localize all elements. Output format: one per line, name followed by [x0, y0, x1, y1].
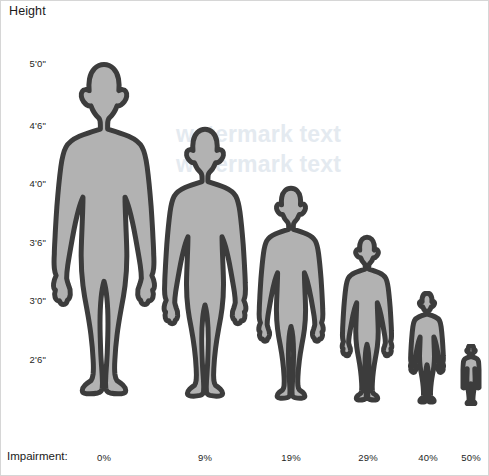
human-silhouette-path — [342, 237, 392, 400]
figure-9-percent — [158, 124, 252, 406]
figure-0-percent — [46, 58, 162, 406]
x-tick-label: 50% — [461, 452, 481, 463]
figure-50-percent — [461, 344, 482, 406]
human-silhouette-path — [259, 188, 323, 398]
x-tick-label: 0% — [97, 452, 111, 463]
height-impairment-chart: Height watermark text watermark text 5'0… — [0, 0, 489, 476]
human-silhouette-icon — [46, 58, 162, 406]
y-tick-label: 2'6" — [29, 354, 46, 365]
human-silhouette-icon — [339, 234, 396, 406]
y-tick-label: 3'0" — [29, 295, 46, 306]
figure-layer — [1, 1, 489, 476]
y-axis: 5'0"4'6"4'0"3'6"3'0"2'6" — [1, 1, 53, 476]
human-silhouette-path — [54, 65, 155, 394]
x-tick-label: 40% — [418, 452, 438, 463]
y-tick-label: 5'0" — [29, 58, 46, 69]
human-silhouette-icon — [254, 184, 328, 406]
human-silhouette-path — [410, 293, 443, 402]
human-silhouette-path — [164, 129, 246, 396]
y-tick-label: 3'6" — [29, 237, 46, 248]
x-axis-title: Impairment: — [7, 450, 68, 462]
y-tick-label: 4'0" — [29, 178, 46, 189]
figure-40-percent — [408, 291, 446, 406]
figure-29-percent — [339, 234, 396, 406]
x-axis: Impairment: 0%9%19%29%40%50% — [1, 450, 489, 470]
x-tick-label: 9% — [198, 452, 212, 463]
human-silhouette-icon — [461, 344, 482, 406]
human-silhouette-icon — [408, 291, 446, 406]
x-tick-label: 29% — [358, 452, 378, 463]
x-tick-label: 19% — [281, 452, 301, 463]
y-tick-label: 4'6" — [29, 120, 46, 131]
human-silhouette-icon — [158, 124, 252, 406]
figure-19-percent — [254, 184, 328, 406]
human-silhouette-path — [462, 345, 480, 404]
